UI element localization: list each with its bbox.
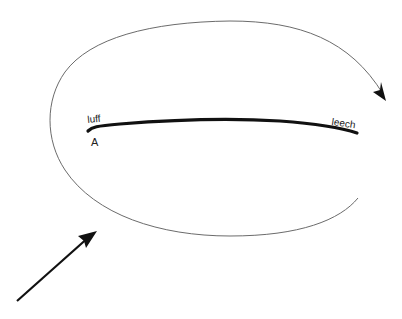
luff-label: luff — [87, 114, 101, 125]
sail-diagram: luff leech A — [0, 0, 402, 319]
loop-arrowhead-icon — [373, 82, 386, 101]
sail-chord — [88, 120, 357, 133]
point-a-label: A — [91, 137, 98, 148]
wind-arrow-shaft — [17, 236, 90, 301]
diagram-graphics — [0, 0, 402, 319]
